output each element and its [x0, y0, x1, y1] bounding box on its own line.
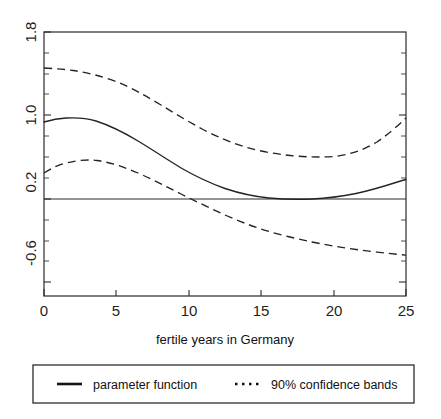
parameter-function-curve [44, 118, 406, 199]
plot-frame [44, 32, 406, 296]
chart-canvas: 1.8 1.0 0.2 -0.6 0 5 10 15 20 25 fertile… [0, 0, 441, 419]
x-tick-label-5: 25 [398, 302, 415, 319]
x-tick-label-4: 20 [326, 302, 343, 319]
x-tick-label-3: 15 [253, 302, 270, 319]
x-axis-title: fertile years in Germany [156, 332, 294, 347]
legend-label-parameter-function: parameter function [93, 378, 197, 392]
x-tick-labels: 0 5 10 15 20 25 [40, 302, 415, 319]
y-axis-right-ticks [399, 53, 406, 282]
y-tick-label-2: 0.2 [22, 172, 39, 193]
y-tick-label-0: 1.8 [22, 22, 39, 43]
x-axis-ticks [44, 289, 406, 296]
y-tick-labels: 1.8 1.0 0.2 -0.6 [22, 22, 39, 266]
x-tick-label-2: 10 [181, 302, 198, 319]
x-tick-label-0: 0 [40, 302, 48, 319]
y-tick-label-1: 1.0 [22, 105, 39, 126]
upper-confidence-band-curve [44, 68, 406, 157]
lower-confidence-band-curve [44, 160, 406, 255]
chart-figure: 1.8 1.0 0.2 -0.6 0 5 10 15 20 25 fertile… [0, 0, 441, 419]
y-axis-minor-ticks [44, 53, 49, 261]
y-tick-label-3: -0.6 [22, 240, 39, 266]
x-tick-label-1: 5 [112, 302, 120, 319]
chart-legend: parameter function 90% confidence bands [33, 365, 414, 403]
legend-label-confidence-bands: 90% confidence bands [271, 378, 397, 392]
